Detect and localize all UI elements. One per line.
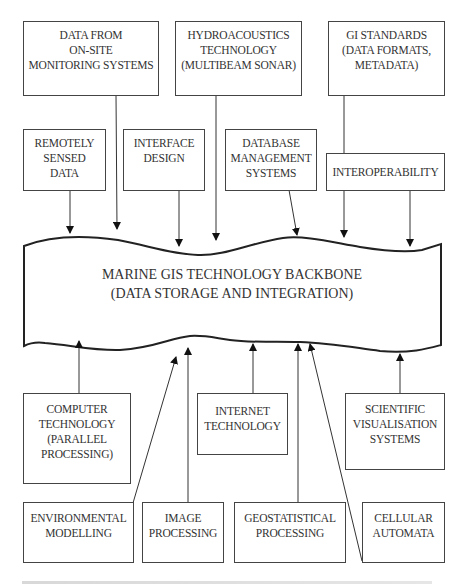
box-label-line: MONITORING SYSTEMS (24, 58, 158, 73)
box-label-line: PROCESSING (143, 526, 223, 541)
box-label-line: SYSTEMS (346, 432, 444, 447)
box-internet-technology: INTERNET TECHNOLOGY (197, 393, 288, 455)
box-interoperability: INTEROPERABILITY (326, 153, 445, 191)
box-on-site-monitoring: DATA FROM ON-SITE MONITORING SYSTEMS (23, 21, 159, 96)
box-label-line: ON-SITE (24, 43, 158, 58)
box-label-line: INTERFACE (124, 136, 204, 151)
box-label-line: ENVIRONMENTAL (24, 511, 133, 526)
box-label-line: MODELLING (24, 526, 133, 541)
backbone-subtitle: (DATA STORAGE AND INTEGRATION) (24, 284, 440, 303)
box-label-line: GI STANDARDS (329, 28, 444, 43)
box-cellular-automata: CELLULAR AUTOMATA (362, 502, 445, 563)
backbone-title: MARINE GIS TECHNOLOGY BACKBONE (24, 265, 440, 284)
box-label-line: TECHNOLOGY (24, 417, 130, 432)
box-hydroacoustics: HYDROACOUSTICS TECHNOLOGY (MULTIBEAM SON… (175, 21, 302, 96)
box-label-line: (DATA FORMATS, (329, 43, 444, 58)
box-label-line: INTEROPERABILITY (327, 165, 444, 180)
box-remotely-sensed-data: REMOTELY SENSED DATA (23, 129, 106, 191)
box-label-line: GEOSTATISTICAL (235, 511, 345, 526)
box-label-line: TECHNOLOGY (176, 43, 301, 58)
box-interface-design: INTERFACE DESIGN (123, 129, 205, 191)
box-label-line: AUTOMATA (363, 526, 444, 541)
box-label-line: DESIGN (124, 151, 204, 166)
box-geostatistical-processing: GEOSTATISTICAL PROCESSING (234, 502, 346, 563)
box-label-line: TECHNOLOGY (198, 419, 287, 434)
box-label-line: DATA FROM (24, 28, 158, 43)
backbone-label: MARINE GIS TECHNOLOGY BACKBONE (DATA STO… (24, 265, 440, 303)
box-label-line: DATA (24, 166, 105, 181)
box-label-line: PROCESSING) (24, 447, 130, 462)
box-image-processing: IMAGE PROCESSING (142, 502, 224, 563)
box-gi-standards: GI STANDARDS (DATA FORMATS, METADATA) (328, 21, 445, 96)
box-database-management: DATABASE MANAGEMENT SYSTEMS (225, 129, 317, 191)
box-label-line: PROCESSING (235, 526, 345, 541)
box-label-line: MANAGEMENT (226, 151, 316, 166)
figure-caption-cutoff (22, 581, 432, 584)
box-label-line: SCIENTIFIC (346, 402, 444, 417)
box-label-line: (PARALLEL (24, 432, 130, 447)
box-scientific-visualisation: SCIENTIFIC VISUALISATION SYSTEMS (345, 393, 445, 470)
box-label-line: IMAGE (143, 511, 223, 526)
box-environmental-modelling: ENVIRONMENTAL MODELLING (23, 502, 134, 563)
box-label-line: VISUALISATION (346, 417, 444, 432)
box-label-line: SYSTEMS (226, 166, 316, 181)
box-label-line: CELLULAR (363, 511, 444, 526)
box-label-line: METADATA) (329, 58, 444, 73)
box-label-line: HYDROACOUSTICS (176, 28, 301, 43)
box-label-line: INTERNET (198, 404, 287, 419)
box-label-line: REMOTELY (24, 136, 105, 151)
box-computer-technology: COMPUTER TECHNOLOGY (PARALLEL PROCESSING… (23, 393, 131, 484)
box-label-line: SENSED (24, 151, 105, 166)
box-label-line: DATABASE (226, 136, 316, 151)
box-label-line: COMPUTER (24, 402, 130, 417)
box-label-line: (MULTIBEAM SONAR) (176, 58, 301, 73)
